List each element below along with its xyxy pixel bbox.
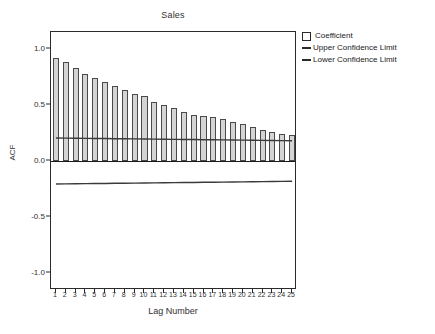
x-tick-label: 21 — [248, 291, 256, 298]
x-tick-label: 5 — [92, 291, 96, 298]
bar — [210, 117, 216, 161]
bar — [269, 132, 275, 161]
bar — [250, 127, 256, 161]
x-tick-label: 24 — [277, 291, 285, 298]
x-tick-label: 1 — [53, 291, 57, 298]
legend-item-label: Upper Confidence Limit — [313, 43, 397, 53]
bar — [73, 68, 79, 161]
acf-chart: Sales ACF 1.00.50.0-0.5-1.0 123456789101… — [0, 0, 435, 334]
bar — [220, 119, 226, 161]
x-tick-label: 17 — [208, 291, 216, 298]
legend-line-icon — [302, 47, 311, 49]
x-tick-label: 15 — [189, 291, 197, 298]
legend-item-label: Lower Confidence Limit — [313, 55, 397, 65]
y-axis-label: ACF — [8, 133, 17, 173]
legend-item[interactable]: Upper Confidence Limit — [302, 42, 397, 54]
x-tick-label: 23 — [267, 291, 275, 298]
x-tick-label: 2 — [63, 291, 67, 298]
x-tick-label: 13 — [169, 291, 177, 298]
x-tick-label: 10 — [140, 291, 148, 298]
y-tick-label: -0.5 — [0, 212, 50, 221]
bar — [181, 112, 187, 161]
x-tick-label: 4 — [82, 291, 86, 298]
bar — [132, 94, 138, 161]
bar — [260, 130, 266, 161]
x-axis-label: Lag Number — [50, 306, 296, 316]
x-tick-label: 19 — [228, 291, 236, 298]
bar — [102, 82, 108, 161]
x-tick-label: 20 — [238, 291, 246, 298]
legend-item-label: Coefficient — [315, 31, 353, 41]
bar — [92, 78, 98, 161]
y-tick-label: 0.0 — [0, 156, 50, 165]
bar — [161, 105, 167, 161]
x-tick-label: 18 — [218, 291, 226, 298]
plot-area — [50, 31, 296, 289]
x-tick-label: 16 — [199, 291, 207, 298]
bar — [191, 115, 197, 161]
bar — [122, 90, 128, 161]
bar — [200, 116, 206, 161]
bar — [112, 86, 118, 161]
x-tick-label: 14 — [179, 291, 187, 298]
bar — [289, 135, 295, 161]
legend-line-icon — [302, 59, 311, 61]
bar — [151, 102, 157, 161]
zero-line — [51, 161, 295, 162]
y-tick-label: -1.0 — [0, 268, 50, 277]
chart-title: Sales — [50, 10, 296, 20]
legend-square-icon — [302, 32, 311, 41]
x-tick-label: 9 — [132, 291, 136, 298]
y-tick-label: 0.5 — [0, 99, 50, 108]
bar — [279, 134, 285, 161]
legend-item[interactable]: Lower Confidence Limit — [302, 54, 397, 66]
y-tick-label: 1.0 — [0, 43, 50, 52]
x-tick-label: 8 — [122, 291, 126, 298]
x-tick-label: 11 — [150, 291, 157, 298]
x-tick-label: 22 — [258, 291, 266, 298]
bar — [82, 74, 88, 161]
x-tick-label: 25 — [287, 291, 295, 298]
chart-legend: CoefficientUpper Confidence LimitLower C… — [302, 30, 397, 66]
bar — [171, 108, 177, 161]
bar — [240, 124, 246, 161]
legend-item[interactable]: Coefficient — [302, 30, 397, 42]
x-tick-label: 12 — [159, 291, 167, 298]
x-tick-label: 7 — [112, 291, 116, 298]
bar — [141, 96, 147, 161]
bar — [53, 58, 59, 161]
x-tick-label: 6 — [102, 291, 106, 298]
bar — [63, 62, 69, 161]
x-tick-label: 3 — [73, 291, 77, 298]
bar — [230, 122, 236, 161]
